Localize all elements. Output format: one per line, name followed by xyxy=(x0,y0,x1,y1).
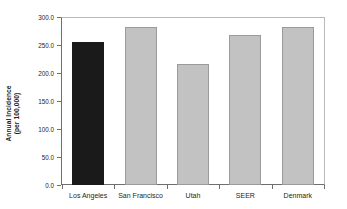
x-axis-tick-mark xyxy=(62,185,63,189)
y-axis-tick-label: 0.0 xyxy=(45,181,54,190)
y-axis-tick-label: 300.0 xyxy=(38,13,54,22)
x-axis-labels: Los AngelesSan FranciscoUtahSEERDenmark xyxy=(62,191,324,205)
y-axis-tick-label: 250.0 xyxy=(38,41,54,50)
x-axis-tick-mark xyxy=(219,185,220,189)
x-axis-tick-mark xyxy=(272,185,273,189)
x-axis-label-seer: SEER xyxy=(219,191,271,201)
y-axis-tick-label: 150.0 xyxy=(38,97,54,106)
bar-seer xyxy=(229,35,261,185)
bar-san-francisco xyxy=(125,27,157,185)
x-axis-ticks xyxy=(61,185,325,190)
y-axis-tick-label: 100.0 xyxy=(38,125,54,134)
y-axis-tick-label: 200.0 xyxy=(38,69,54,78)
y-axis: 0.050.0100.0150.0200.0250.0300.0 xyxy=(0,17,61,185)
x-axis-tick-mark xyxy=(114,185,115,189)
bar-utah xyxy=(177,64,209,185)
x-axis-label-denmark: Denmark xyxy=(272,191,324,201)
y-axis-tick-label: 50.0 xyxy=(42,153,54,162)
bar-chart: Annual Incidence (per 100,000) 0.050.010… xyxy=(0,0,347,209)
x-axis-label-san-francisco: San Francisco xyxy=(114,191,166,201)
x-axis-tick-mark xyxy=(167,185,168,189)
x-axis-label-utah: Utah xyxy=(167,191,219,201)
bar-denmark xyxy=(282,27,314,185)
bar-los-angeles xyxy=(72,42,104,185)
bar-series xyxy=(62,17,324,185)
x-axis-tick-mark xyxy=(324,185,325,189)
x-axis-label-los-angeles: Los Angeles xyxy=(62,191,114,201)
